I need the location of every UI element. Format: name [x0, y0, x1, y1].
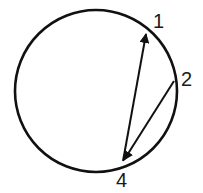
point-label-1: 1: [153, 10, 164, 32]
circle-diagram: 1 2 4: [0, 0, 203, 193]
point-label-2: 2: [181, 68, 192, 90]
circle: [15, 10, 177, 172]
point-label-4: 4: [116, 169, 127, 191]
arrow-2-to-4: [124, 81, 174, 160]
